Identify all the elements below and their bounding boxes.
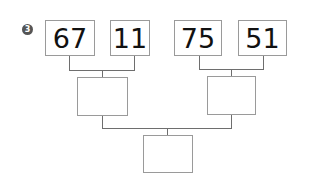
connector-line [167, 128, 168, 135]
connector-line [69, 56, 70, 70]
connector-line [102, 70, 103, 77]
answer-box-right[interactable] [207, 76, 256, 115]
answer-box-final[interactable] [143, 135, 193, 173]
number-box-1: 67 [45, 20, 95, 56]
connector-line [134, 56, 135, 70]
connector-line [199, 56, 200, 69]
number-box-4: 51 [238, 20, 287, 56]
connector-line [231, 115, 232, 129]
number-box-2: 11 [110, 20, 150, 56]
answer-box-left[interactable] [77, 77, 128, 116]
number-box-3: 75 [174, 20, 222, 56]
connector-line [263, 56, 264, 69]
problem-number-badge: 3 [22, 24, 33, 35]
connector-line [231, 69, 232, 76]
